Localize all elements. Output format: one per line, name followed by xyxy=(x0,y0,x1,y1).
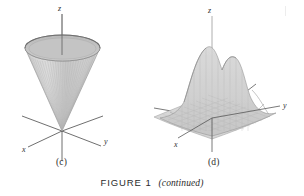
panel-label-c: (c) xyxy=(56,157,67,167)
figure-page: z x y (c) xyxy=(0,0,304,196)
y-axis-positive-c xyxy=(62,131,101,146)
peak-surface xyxy=(160,40,276,140)
bumpy-surface-plot: z x y xyxy=(152,0,304,170)
figure-caption: FIGURE 1(continued) xyxy=(0,177,304,188)
z-axis-label-c: z xyxy=(57,4,62,13)
z-axis-label-d: z xyxy=(207,6,212,15)
elliptic-cone-plot: z x y xyxy=(0,0,152,170)
cone-svg: z x y xyxy=(0,0,152,170)
figure-caption-continued: (continued) xyxy=(159,178,204,188)
y-axis-label-c: y xyxy=(103,137,108,146)
x-axis-label-d: x xyxy=(173,140,178,149)
cone-top-ellipse xyxy=(25,35,100,61)
surface-svg: z x y xyxy=(152,0,304,170)
x-axis-label-c: x xyxy=(21,145,26,154)
x-axis-negative-c xyxy=(28,131,62,147)
figure-caption-main: FIGURE 1 xyxy=(101,177,152,188)
panel-label-d: (d) xyxy=(208,157,220,167)
y-axis-label-d: y xyxy=(282,101,287,110)
